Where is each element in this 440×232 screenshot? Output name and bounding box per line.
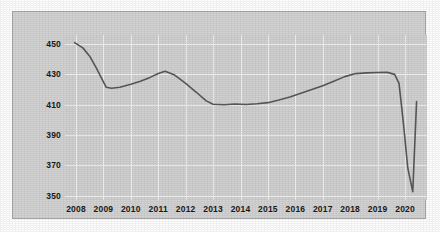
x-tick-label-2010: 2010 (121, 204, 141, 214)
y-tick-label-370: 370 (46, 160, 61, 170)
series-path (75, 43, 417, 192)
x-tick-label-2016: 2016 (286, 204, 306, 214)
y-tick-label-390: 390 (46, 130, 61, 140)
x-tick-label-2020: 2020 (395, 204, 415, 214)
x-tick-label-2015: 2015 (258, 204, 278, 214)
y-axis-tick-labels: 450430410390370350 (27, 35, 61, 200)
y-tick-label-450: 450 (46, 39, 61, 49)
y-tick-label-430: 430 (46, 69, 61, 79)
x-tick-label-2012: 2012 (176, 204, 196, 214)
x-tick-label-2019: 2019 (368, 204, 388, 214)
x-tick-label-2013: 2013 (203, 204, 223, 214)
x-tick-label-2014: 2014 (231, 204, 251, 214)
chart-figure: 450430410390370350 200820092010201120122… (0, 0, 440, 232)
chart-panel: 450430410390370350 200820092010201120122… (12, 11, 426, 219)
line-series (65, 35, 427, 200)
x-tick-label-2008: 2008 (66, 204, 86, 214)
plot-area (65, 35, 427, 200)
x-tick-label-2009: 2009 (94, 204, 114, 214)
x-axis-tick-labels: 2008200920102011201220132014201520162017… (65, 202, 427, 218)
x-tick-label-2017: 2017 (313, 204, 333, 214)
y-tick-label-410: 410 (46, 100, 61, 110)
x-tick-label-2011: 2011 (149, 204, 168, 214)
x-tick-label-2018: 2018 (340, 204, 360, 214)
y-tick-label-350: 350 (46, 191, 61, 201)
